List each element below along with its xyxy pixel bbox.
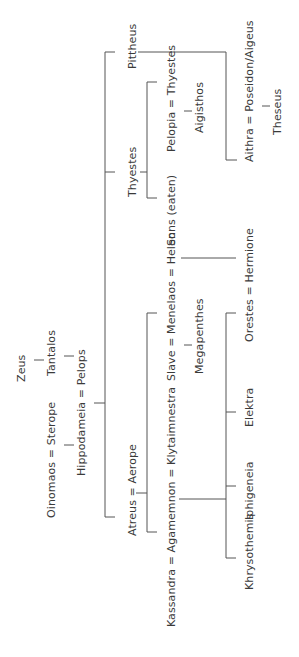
node-iphigeneia: Iphigeneia	[244, 461, 256, 520]
node-hippodameia-pelops: Hippodameia = Pelops	[76, 349, 88, 476]
node-thyestes: Thyestes	[127, 147, 139, 197]
node-oinomaos-sterope: Oinomaos = Sterope	[46, 402, 58, 518]
node-pelopia-thyestes: Pelopia = Thyestes	[166, 45, 178, 152]
node-slave-menelaos-helen: Slave = Menelaos = Helen	[166, 232, 178, 381]
node-kassandra-agamemnon-klytaimnestra: Kassandra = Agamemnon = Klytaimnestra	[166, 387, 178, 627]
node-aigisthos: Aigisthos	[194, 82, 206, 133]
node-orestes-hermione: Orestes = Hermione	[244, 228, 256, 342]
node-aithra-poseidon-aigeus: Aithra = Poseidon/Aigeus	[244, 20, 256, 162]
node-atreus-aerope: Atreus = Aerope	[127, 444, 139, 536]
node-elektra: Elektra	[244, 388, 256, 427]
node-theseus: Theseus	[272, 89, 284, 135]
node-megapenthes: Megapenthes	[194, 298, 206, 374]
node-tantalos: Tantalos	[46, 330, 58, 376]
node-khrysothemis: Khrysothemis	[244, 514, 256, 590]
node-pittheus: Pittheus	[127, 24, 139, 69]
node-zeus: Zeus	[16, 355, 28, 382]
family-tree-diagram: Zeus Tantalos Oinomaos = Sterope Hippoda…	[0, 0, 299, 657]
